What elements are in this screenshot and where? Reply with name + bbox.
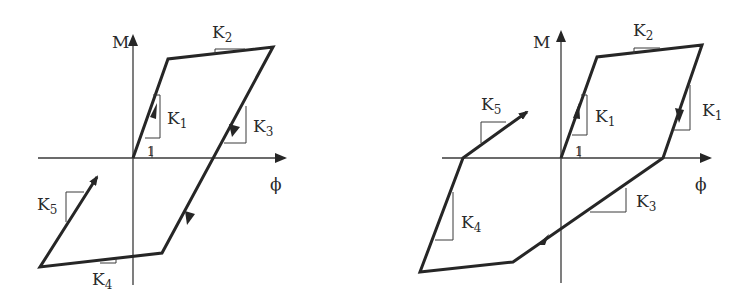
right-k1-label: K1 xyxy=(595,106,615,129)
left-x-axis-label: ϕ xyxy=(270,174,282,194)
right-k3-label: K3 xyxy=(636,191,656,214)
right-k1b-label: K1 xyxy=(702,100,722,123)
right-unit-slope-label: 1 xyxy=(575,145,583,159)
left-k1-label: K1 xyxy=(167,108,187,131)
hysteresis-figure: M ϕ 1 K2 K1 K3 K5 K4 M ϕ xyxy=(0,0,753,295)
left-unit-slope-label: 1 xyxy=(147,145,155,159)
right-k4-label: K4 xyxy=(461,212,482,235)
left-k5-slope-triangle xyxy=(66,192,84,222)
right-x-axis-label: ϕ xyxy=(695,174,707,194)
right-y-axis-label: M xyxy=(533,32,550,52)
right-k3-slope-triangle xyxy=(590,188,626,212)
right-k5-label: K5 xyxy=(481,94,501,117)
left-k5-label: K5 xyxy=(37,194,57,217)
left-y-axis-label: M xyxy=(112,32,129,52)
left-k3-slope-triangle xyxy=(224,106,246,143)
right-loading-arrow-icon xyxy=(573,103,580,119)
right-k4-slope-triangle xyxy=(435,192,453,240)
left-k2-label: K2 xyxy=(212,22,232,45)
left-hysteresis-curve xyxy=(40,47,273,267)
right-diagram: M ϕ 1 K2 K1 K1 K3 K4 K5 xyxy=(420,20,722,283)
right-k2-label: K2 xyxy=(633,20,653,43)
left-k4-label: K4 xyxy=(92,269,113,292)
left-reverse-arrow-icon xyxy=(185,211,195,225)
left-k3-label: K3 xyxy=(253,116,273,139)
right-k5-slope-triangle xyxy=(481,122,506,143)
left-unloading-arrow-icon xyxy=(229,124,240,137)
left-diagram: M ϕ 1 K2 K1 K3 K5 K4 xyxy=(37,22,285,292)
